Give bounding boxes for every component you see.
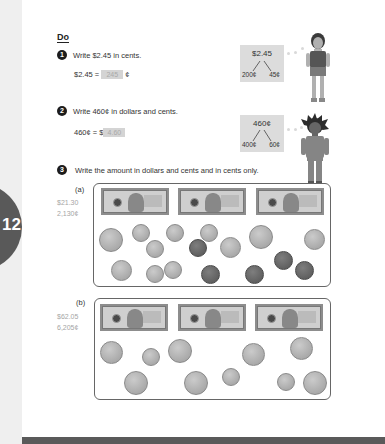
twenty-dollar-bill: [255, 304, 323, 331]
question-number-2: 2: [57, 106, 67, 116]
boy-illustration: [296, 113, 334, 185]
workbook-page: 12 Do 1 Write $2.45 in cents. $2.45 = 24…: [0, 0, 385, 444]
part-a-answer[interactable]: $21.30 2,130¢: [57, 197, 78, 219]
section-title: Do: [57, 33, 69, 43]
nickel-coin: [200, 224, 218, 242]
question-1-prompt: Write $2.45 in cents.: [73, 51, 141, 60]
question-2-prompt: Write 460¢ in dollars and cents.: [73, 107, 178, 116]
question-number-1: 1: [57, 50, 67, 60]
penny-coin: [245, 265, 264, 284]
twenty-dollar-bill: [100, 304, 168, 331]
dime-coin: [164, 261, 182, 279]
penny-coin: [201, 265, 220, 284]
dime-coin: [146, 265, 164, 283]
bond-whole: 460¢: [240, 119, 284, 128]
five-dollar-bill: [178, 188, 246, 215]
penny-coin: [295, 261, 314, 280]
bond-part-left: 400¢: [242, 141, 256, 148]
chapter-number: 12: [2, 215, 21, 235]
quarter-coin: [242, 343, 265, 366]
quarter-coin: [184, 371, 208, 395]
question-1-equation: $2.45 = 245 ¢: [74, 70, 129, 79]
question-2-equation: 460¢ = $ 4.60: [74, 128, 127, 137]
dime-coin: [142, 348, 160, 366]
dime-coin: [222, 368, 240, 386]
thought-bubble-2: 460¢ 400¢ 60¢: [240, 115, 284, 152]
part-a-cents: 2,130¢: [57, 208, 78, 219]
quarter-coin: [290, 337, 313, 360]
dime-coin: [277, 373, 295, 391]
question-3-prompt: Write the amount in dollars and cents an…: [75, 166, 259, 175]
ten-dollar-bill: [101, 188, 169, 215]
penny-coin: [189, 239, 207, 257]
nickel-coin: [132, 224, 150, 242]
money-box-b: [94, 298, 331, 400]
equation-left: 460¢ = $: [74, 128, 103, 137]
girl-illustration: [300, 32, 336, 104]
quarter-coin: [304, 229, 325, 250]
equation-left: $2.45 =: [74, 70, 99, 79]
answer-field[interactable]: 4.60: [103, 128, 125, 137]
equation-right: ¢: [125, 70, 129, 79]
quarter-coin: [124, 371, 148, 395]
quarter-coin: [100, 341, 123, 364]
quarter-coin: [303, 371, 327, 395]
part-a-label: (a): [75, 185, 84, 194]
thought-dot: [287, 128, 290, 131]
bond-part-left: 200¢: [242, 71, 256, 78]
twenty-dollar-bill: [178, 304, 246, 331]
bond-part-right: 45¢: [269, 71, 280, 78]
nickel-coin: [166, 224, 184, 242]
thought-bubble-1: $2.45 200¢ 45¢: [240, 45, 284, 82]
part-b-dollars: $62.05: [57, 311, 78, 322]
five-dollar-bill: [256, 188, 324, 215]
thought-dot: [287, 52, 290, 55]
page-footer-bar: [22, 437, 385, 444]
quarter-coin: [111, 260, 132, 281]
penny-coin: [274, 251, 293, 270]
bond-whole: $2.45: [240, 49, 284, 58]
money-box-a: [93, 183, 331, 287]
part-b-cents: 6,205¢: [57, 322, 78, 333]
part-b-label: (b): [76, 298, 85, 307]
bond-part-right: 60¢: [269, 141, 280, 148]
quarter-coin: [99, 228, 123, 252]
question-number-3: 3: [57, 165, 67, 175]
answer-field[interactable]: 245: [101, 70, 123, 79]
thought-dot: [294, 51, 297, 54]
quarter-coin: [249, 225, 273, 249]
nickel-coin: [146, 240, 164, 258]
part-b-answer[interactable]: $62.05 6,205¢: [57, 311, 78, 333]
quarter-coin: [168, 339, 192, 363]
part-a-dollars: $21.30: [57, 197, 78, 208]
nickel-coin: [220, 237, 241, 258]
